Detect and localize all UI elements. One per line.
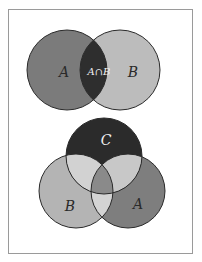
label-a: A bbox=[57, 64, 69, 80]
bottom-venn: C B A bbox=[39, 118, 165, 228]
label-intersection: A∩B bbox=[87, 66, 111, 77]
label-b-2: B bbox=[64, 198, 75, 214]
venn-diagrams: A B A∩B C B A bbox=[0, 0, 202, 262]
top-venn: A B A∩B bbox=[27, 30, 160, 110]
label-a-2: A bbox=[131, 196, 143, 212]
label-c: C bbox=[101, 132, 112, 148]
label-b: B bbox=[127, 64, 138, 80]
